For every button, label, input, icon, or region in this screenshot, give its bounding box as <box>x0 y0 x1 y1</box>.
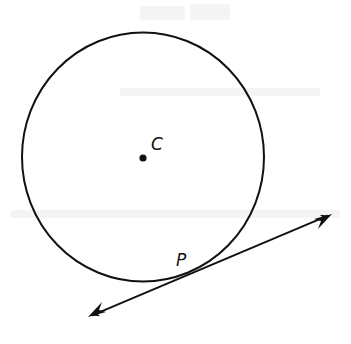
tangent-line <box>92 216 328 316</box>
center-label: C <box>151 134 163 154</box>
circle-tangent-diagram: C P <box>0 0 351 344</box>
diagram-canvas: C P <box>0 0 351 344</box>
center-point <box>139 154 146 161</box>
tangent-point-label: P <box>176 250 187 270</box>
